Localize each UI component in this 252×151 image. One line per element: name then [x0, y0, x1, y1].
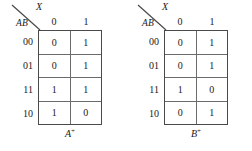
cell-00-1: 1 [71, 31, 102, 54]
karnaugh-map-b-next: X AB 0 1 00 01 11 10 0 1 0 1 1 0 0 1 B+ [126, 0, 252, 151]
kmap-caption: B+ [164, 128, 228, 139]
row-label-00: 00 [8, 30, 36, 54]
row-variable-label: AB [142, 19, 154, 29]
cell-11-0: 1 [39, 78, 71, 101]
cell-11-1: 1 [71, 78, 102, 101]
row-label-column: 00 01 11 10 [8, 30, 36, 125]
caption-superscript: + [197, 127, 201, 135]
cell-10-1: 1 [197, 102, 228, 125]
column-variable-label: X [162, 2, 168, 12]
table-row: 0 1 [165, 31, 227, 55]
row-label-11: 11 [134, 78, 162, 102]
cell-11-1: 0 [197, 78, 228, 101]
cell-00-1: 1 [197, 31, 228, 54]
row-label-11: 11 [8, 78, 36, 102]
cell-11-0: 1 [165, 78, 197, 101]
column-header-row: 0 1 [164, 14, 228, 29]
table-row: 1 1 [39, 78, 101, 102]
cell-01-1: 1 [197, 55, 228, 78]
row-label-00: 00 [134, 30, 162, 54]
caption-superscript: + [71, 127, 75, 135]
row-label-01: 01 [134, 54, 162, 78]
column-header-0: 0 [38, 14, 70, 29]
cell-01-1: 1 [71, 55, 102, 78]
kmap-grid: 0 1 0 1 1 0 0 1 [164, 30, 228, 125]
kmap-caption: A+ [38, 128, 102, 139]
column-header-0: 0 [164, 14, 196, 29]
cell-10-0: 0 [165, 102, 197, 125]
column-header-1: 1 [70, 14, 102, 29]
table-row: 1 0 [165, 78, 227, 102]
table-row: 1 0 [39, 102, 101, 125]
table-row: 0 1 [39, 31, 101, 55]
cell-00-0: 0 [165, 31, 197, 54]
table-row: 0 1 [165, 55, 227, 79]
row-label-10: 10 [8, 101, 36, 125]
table-row: 0 1 [165, 102, 227, 125]
cell-10-0: 1 [39, 102, 71, 125]
column-variable-label: X [36, 2, 42, 12]
karnaugh-map-a-next: X AB 0 1 00 01 11 10 0 1 0 1 1 1 1 0 A+ [0, 0, 126, 151]
kmap-grid: 0 1 0 1 1 1 1 0 [38, 30, 102, 125]
cell-01-0: 0 [165, 55, 197, 78]
row-variable-label: AB [16, 19, 28, 29]
column-header-1: 1 [196, 14, 228, 29]
cell-10-1: 0 [71, 102, 102, 125]
row-label-01: 01 [8, 54, 36, 78]
cell-01-0: 0 [39, 55, 71, 78]
row-label-10: 10 [134, 101, 162, 125]
cell-00-0: 0 [39, 31, 71, 54]
table-row: 0 1 [39, 55, 101, 79]
row-label-column: 00 01 11 10 [134, 30, 162, 125]
column-header-row: 0 1 [38, 14, 102, 29]
